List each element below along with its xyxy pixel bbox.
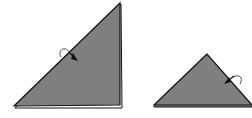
step-2-triangle [154, 54, 252, 107]
step-2-paper [154, 54, 252, 105]
step-1-paper [14, 3, 120, 106]
step-1-triangle [14, 3, 122, 108]
origami-diagram [0, 0, 252, 118]
step-2-back-layer [154, 106, 252, 107]
